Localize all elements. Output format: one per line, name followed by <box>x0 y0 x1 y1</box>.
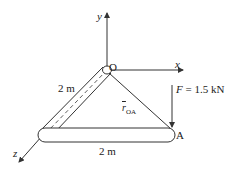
point-a-label: A <box>176 130 184 141</box>
diagonal-dimension: 2 m <box>58 83 75 94</box>
horizontal-member <box>38 128 175 142</box>
z-axis <box>19 136 42 162</box>
position-vector-oa <box>109 73 171 129</box>
origin-label: O <box>109 62 117 73</box>
horizontal-dimension: 2 m <box>99 146 116 157</box>
vector-label: rOA <box>122 103 136 116</box>
force-label: F = 1.5 kN <box>176 84 224 95</box>
z-axis-label: z <box>13 148 17 159</box>
x-axis-label: x <box>175 59 180 70</box>
diagonal-member <box>40 66 112 131</box>
y-axis-label: y <box>97 11 102 22</box>
